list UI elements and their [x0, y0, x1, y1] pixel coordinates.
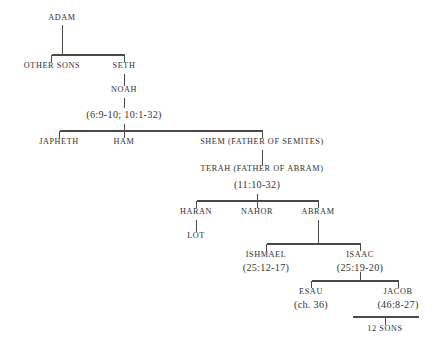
node-esau-label: ESAU	[299, 287, 323, 296]
node-haran-label: HARAN	[180, 207, 212, 216]
node-ham-label: HAM	[114, 137, 135, 146]
node-nahor-label: NAHOR	[241, 207, 273, 216]
node-jacob-reference-text: (46:8-27)	[377, 299, 418, 310]
node-jacob-reference: (46:8-27)	[377, 299, 418, 310]
node-shem-label: SHEM (FATHER OF SEMITES)	[200, 137, 324, 146]
node-twelve-sons-label: 12 SONS	[367, 324, 402, 333]
node-noah-reference: (6:9-10; 10:1-32)	[86, 109, 162, 120]
node-ishmael-reference: (25:12-17)	[243, 262, 290, 273]
node-lot: LOT	[187, 232, 205, 241]
node-esau: ESAU	[299, 288, 323, 297]
node-esau-reference-text: (ch. 36)	[294, 299, 328, 310]
node-japheth: JAPHETH	[39, 138, 79, 147]
node-other-sons: OTHER SONS	[24, 62, 80, 71]
node-ishmael-label: ISHMAEL	[246, 250, 287, 259]
node-ishmael: ISHMAEL	[246, 251, 287, 260]
node-terah: TERAH (FATHER OF ABRAM)	[200, 165, 323, 174]
genealogy-chart: ADAM OTHER SONS SETH NOAH (6:9-10; 10:1-…	[0, 0, 437, 347]
node-noah: NOAH	[111, 86, 137, 95]
node-isaac-reference: (25:19-20)	[337, 262, 384, 273]
node-adam-label: ADAM	[48, 13, 75, 22]
node-terah-label: TERAH (FATHER OF ABRAM)	[200, 164, 323, 173]
node-isaac-reference-text: (25:19-20)	[337, 262, 384, 273]
node-seth-label: SETH	[113, 61, 136, 70]
node-noah-label: NOAH	[111, 85, 137, 94]
node-noah-reference-text: (6:9-10; 10:1-32)	[86, 109, 162, 120]
node-seth: SETH	[113, 62, 136, 71]
node-jacob-label: JACOB	[384, 287, 413, 296]
node-other-sons-label: OTHER SONS	[24, 61, 80, 70]
node-abram-label: ABRAM	[301, 207, 334, 216]
node-terah-reference: (11:10-32)	[234, 179, 280, 190]
node-isaac-label: ISAAC	[346, 250, 374, 259]
node-adam: ADAM	[48, 14, 75, 23]
node-ishmael-reference-text: (25:12-17)	[243, 262, 290, 273]
node-jacob: JACOB	[384, 288, 413, 297]
node-japheth-label: JAPHETH	[39, 137, 79, 146]
node-lot-label: LOT	[187, 231, 205, 240]
node-esau-reference: (ch. 36)	[294, 299, 328, 310]
node-shem: SHEM (FATHER OF SEMITES)	[200, 138, 324, 147]
node-isaac: ISAAC	[346, 251, 374, 260]
node-nahor: NAHOR	[241, 208, 273, 217]
node-ham: HAM	[114, 138, 135, 147]
node-abram: ABRAM	[301, 208, 334, 217]
node-haran: HARAN	[180, 208, 212, 217]
node-twelve-sons: 12 SONS	[367, 325, 402, 334]
node-terah-reference-text: (11:10-32)	[234, 179, 280, 190]
